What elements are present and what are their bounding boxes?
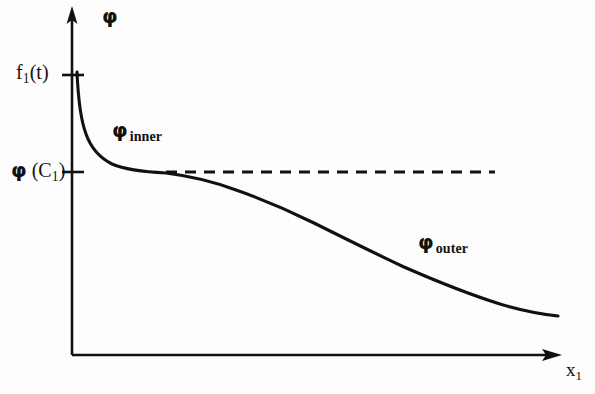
annotation-phi-inner: φinner <box>112 120 162 144</box>
phi-c1-close: ) <box>59 159 66 181</box>
solution-curve <box>77 72 558 316</box>
y-axis-group <box>67 6 78 355</box>
y-axis-title: φ <box>102 6 118 26</box>
phi-c1-open: (C <box>27 159 52 181</box>
phi-inner-subscript: inner <box>130 129 162 144</box>
phi-outer-subscript: outer <box>436 241 468 256</box>
diagram-svg <box>0 0 595 394</box>
y-tick-label-f1t: f1(t) <box>16 62 49 86</box>
phi-symbol-y-axis: φ <box>102 4 118 28</box>
x-axis-group <box>72 349 562 361</box>
phi-symbol-inner: φ <box>112 118 128 142</box>
y-tick-label-phi-c1: φ (C1) <box>11 160 65 184</box>
diagram-canvas: φ x1 f1(t) φ (C1) φinner φouter <box>0 0 595 394</box>
x-axis-title-subscript: 1 <box>576 368 583 383</box>
f1t-base: f <box>16 61 23 83</box>
phi-c1-subscript: 1 <box>52 169 59 184</box>
x-axis-title: x1 <box>566 360 582 383</box>
phi-symbol-outer: φ <box>418 230 434 254</box>
f1t-tail: (t) <box>30 61 49 83</box>
annotation-phi-outer: φouter <box>418 232 468 256</box>
f1t-subscript: 1 <box>23 71 30 86</box>
phi-symbol-c1: φ <box>11 158 27 182</box>
x-axis-title-base: x <box>566 359 576 380</box>
